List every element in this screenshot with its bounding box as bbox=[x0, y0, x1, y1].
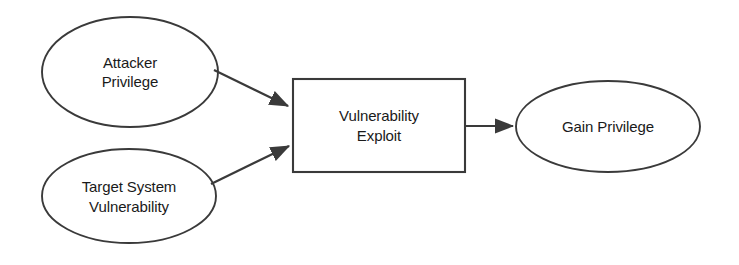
node-shape-attacker-privilege[interactable] bbox=[42, 17, 218, 127]
node-shape-gain-privilege[interactable] bbox=[516, 81, 700, 172]
edge-attacker-to-exploit bbox=[214, 70, 288, 106]
edge-target-to-exploit bbox=[211, 146, 289, 184]
node-shape-vulnerability-exploit[interactable] bbox=[293, 79, 465, 172]
node-shape-target-system-vulnerability[interactable] bbox=[42, 149, 216, 243]
diagram-canvas: Attacker Privilege Target System Vulnera… bbox=[0, 0, 739, 265]
diagram-shapes bbox=[0, 0, 739, 265]
